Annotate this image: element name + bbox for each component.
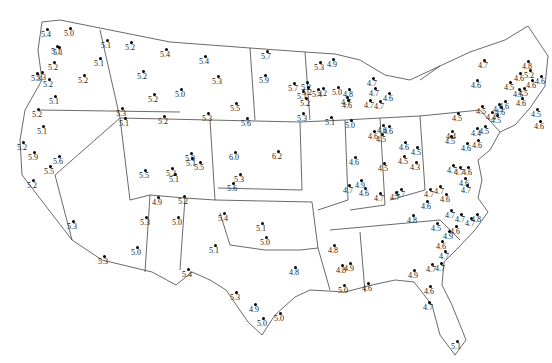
station-value: 5.4 (218, 215, 228, 223)
station-value: 5.4 (182, 271, 192, 279)
station-value: 4.7 (423, 304, 433, 312)
station-value: 4.9 (327, 61, 337, 69)
station-value: 4.8 (289, 269, 299, 277)
station-value: 4.9 (408, 272, 418, 280)
station-value: 5.1 (325, 119, 335, 127)
station-value: 5.7 (288, 85, 298, 93)
station-value: 5.2 (78, 77, 88, 85)
station-value: 5.0 (345, 122, 355, 130)
station-value: 4.8 (471, 216, 481, 224)
station-value: 5.2 (300, 100, 310, 108)
station-value: 4.5 (378, 165, 388, 173)
station-value: 5.1 (101, 42, 111, 50)
station-value: 5.2 (137, 73, 147, 81)
station-value: 5.3 (297, 115, 307, 123)
station-value: 5.6 (227, 185, 237, 193)
station-value: 5.2 (43, 81, 53, 89)
station-value: 5.4 (160, 51, 170, 59)
station-value: 4.5 (411, 149, 421, 157)
station-value: 5.4 (41, 31, 51, 39)
station-value: 4.6 (349, 159, 359, 167)
station-value: 5.0 (260, 239, 270, 247)
station-value: 5.2 (317, 90, 327, 98)
station-value: 5.2 (17, 144, 27, 152)
station-value: 4.7 (343, 187, 353, 195)
station-value: 5.2 (148, 96, 158, 104)
station-value: 4.9 (344, 265, 354, 273)
station-value: 5.1 (49, 98, 59, 106)
station-value: 5.3 (31, 75, 41, 83)
station-value: 5.7 (261, 53, 271, 61)
station-value: 5.0 (274, 315, 284, 323)
station-value: 4.6 (342, 102, 352, 110)
station-value: 4.6 (472, 142, 482, 150)
station-value: 5.1 (256, 225, 266, 233)
station-value: 4.5 (493, 106, 503, 114)
station-value: 4.7 (367, 80, 377, 88)
station-value: 4.7 (424, 191, 434, 199)
state-boundaries (0, 0, 552, 363)
station-value: 4.6 (516, 100, 526, 108)
station-value: 5.3 (314, 64, 324, 72)
station-value: 4.6 (362, 285, 372, 293)
station-value: 5.0 (64, 30, 74, 38)
station-value: 4.5 (479, 128, 489, 136)
station-value: 4.6 (440, 196, 450, 204)
station-value: 4.6 (421, 203, 431, 211)
station-value: 5.2 (125, 44, 135, 52)
station-value: 5.5 (230, 105, 240, 113)
station-value: 5.1 (37, 128, 47, 136)
station-value: 5.5 (139, 172, 149, 180)
station-value: 4.8 (407, 217, 417, 225)
station-value: 5.5 (44, 168, 54, 176)
station-value: 6.0 (229, 154, 239, 162)
station-value: 4.6 (383, 95, 393, 103)
station-value: 5.0 (257, 320, 267, 328)
station-value: 4.5 (491, 117, 501, 125)
station-value: 5.3 (230, 294, 240, 302)
station-value: 4.6 (450, 228, 460, 236)
station-value: 4.6 (359, 190, 369, 198)
station-value: 4.7 (426, 266, 436, 274)
station-value: 5.3 (98, 258, 108, 266)
station-value: 4.6 (535, 78, 545, 86)
station-value: 4.7 (364, 102, 374, 110)
station-value: 4.6 (534, 123, 544, 131)
station-value: 5.2 (178, 198, 188, 206)
station-value: 4.7 (374, 195, 384, 203)
station-value: 4.7 (369, 90, 379, 98)
station-value: 4.6 (383, 128, 393, 136)
station-value: 4.7 (374, 103, 384, 111)
station-value: 5.1 (169, 176, 179, 184)
station-value: 4.7 (447, 167, 457, 175)
station-value: 5.1 (53, 49, 63, 57)
station-value: 5.0 (332, 89, 342, 97)
station-value: 4.8 (328, 247, 338, 255)
station-value: 5.2 (302, 89, 312, 97)
station-value: 5.0 (175, 91, 185, 99)
station-value: 5.1 (451, 343, 461, 351)
station-value: 4.7 (455, 216, 465, 224)
station-value: 4.6 (399, 144, 409, 152)
station-value: 5.1 (119, 120, 129, 128)
station-value: 4.6 (424, 288, 434, 296)
station-value: 5.0 (131, 249, 141, 257)
station-value: 4.5 (431, 225, 441, 233)
station-value: 4.7 (439, 253, 449, 261)
us-map: 5.45.05.15.15.25.35.35.25.25.15.25.15.15… (0, 0, 552, 363)
station-value: 4.6 (471, 82, 481, 90)
station-value: 5.3 (67, 223, 77, 231)
station-value: 4.7 (445, 212, 455, 220)
station-value: 5.2 (27, 182, 37, 190)
station-value: 5.2 (48, 64, 58, 72)
station-value: 4.6 (461, 145, 471, 153)
station-value: 5.3 (234, 176, 244, 184)
station-value: 5.3 (202, 115, 212, 123)
station-value: 4.7 (395, 191, 405, 199)
station-value: 5.9 (259, 77, 269, 85)
station-value: 5.0 (172, 219, 182, 227)
station-value: 5.1 (209, 247, 219, 255)
station-value: 4.5 (445, 138, 455, 146)
station-value: 4.7 (461, 187, 471, 195)
station-value: 5.6 (53, 158, 63, 166)
